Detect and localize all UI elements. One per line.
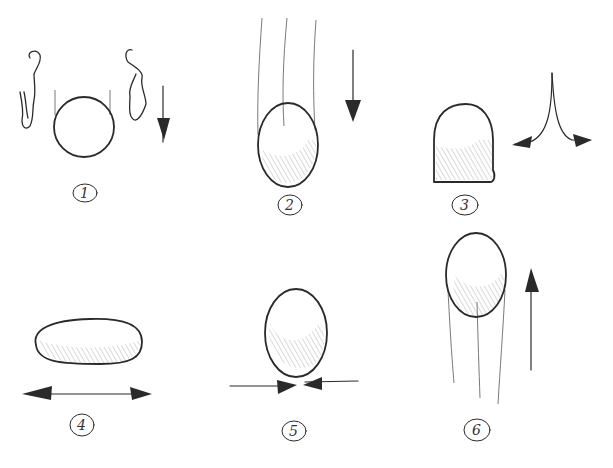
frame-label: 1 (80, 185, 89, 201)
arrow-horizontal-inward-icon (230, 377, 358, 394)
arrow-split-outward-icon (512, 73, 592, 148)
frame-6: 6 (446, 233, 539, 441)
frame-label: 3 (460, 197, 469, 213)
frame-3: 3 (434, 73, 592, 215)
frame-label: 6 (472, 422, 481, 438)
arrow-up-icon (525, 268, 539, 370)
arrow-down-icon (157, 86, 170, 142)
frame-label: 2 (284, 197, 294, 213)
frame-label: 5 (289, 423, 298, 439)
frame-4: 4 (22, 319, 152, 436)
arrow-horizontal-outward-icon (22, 386, 152, 400)
motion-smear-left-icon (20, 51, 40, 128)
frame-1: 1 (20, 50, 170, 202)
frame-5: 5 (230, 289, 358, 441)
frame-2: 2 (258, 18, 361, 215)
arrow-down-icon (345, 50, 361, 122)
motion-smear-right-icon (126, 50, 146, 120)
frame-label: 4 (76, 417, 86, 433)
